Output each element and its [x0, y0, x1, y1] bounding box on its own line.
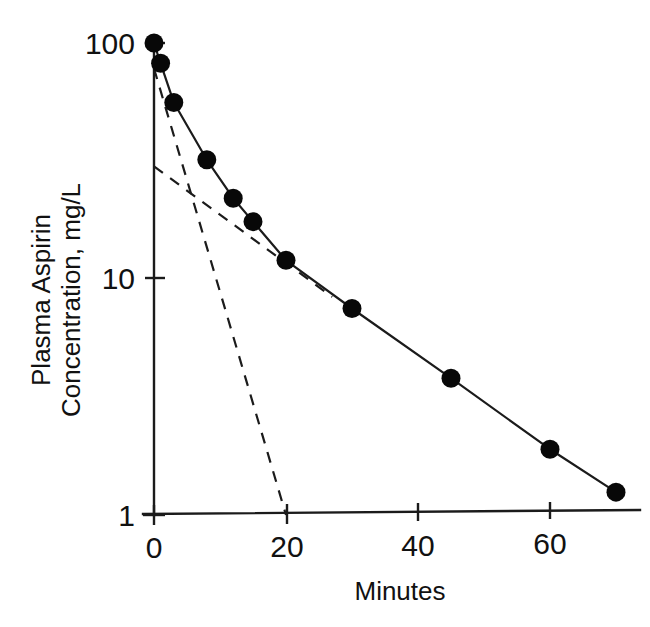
dashed-extrapolation-line-2	[154, 166, 332, 296]
y-axis-title: Plasma Aspirin Concentration, mg/L	[26, 183, 86, 417]
data-point-marker	[277, 251, 296, 270]
data-point-marker	[224, 189, 243, 208]
x-tick-labels: 0 20 40 60	[146, 527, 567, 564]
axes-group	[143, 38, 640, 515]
y-tick-labels: 100 10 1	[85, 27, 135, 532]
data-point-marker	[541, 440, 560, 459]
chart-container: 100 10 1 0 20 40 60 Minutes Plasma Aspir…	[0, 0, 650, 627]
data-point-marker	[442, 369, 461, 388]
data-point-marker	[151, 54, 170, 73]
data-point-marker	[145, 34, 164, 53]
y-tick-label-100: 100	[85, 27, 135, 60]
data-point-marker	[607, 483, 626, 502]
data-point-marker	[244, 212, 263, 231]
plasma-aspirin-concentration-chart: 100 10 1 0 20 40 60 Minutes Plasma Aspir…	[0, 0, 650, 627]
x-axis-line	[143, 510, 640, 514]
data-point-marker	[197, 150, 216, 169]
x-tick-label-60: 60	[533, 527, 566, 560]
data-point-marker	[164, 93, 183, 112]
marker-layer	[145, 34, 626, 502]
y-axis-title-line2: Concentration, mg/L	[56, 183, 86, 417]
x-tick-label-20: 20	[270, 530, 303, 563]
y-tick-label-10: 10	[102, 262, 135, 295]
dashed-extrapolation-line-1	[154, 68, 286, 515]
x-tick-label-40: 40	[401, 529, 434, 562]
data-series-line	[154, 43, 616, 492]
y-tick-label-1: 1	[118, 499, 135, 532]
x-tick-label-0: 0	[146, 531, 163, 564]
data-point-marker	[343, 299, 362, 318]
x-axis-title: Minutes	[354, 576, 445, 606]
y-axis-title-line1: Plasma Aspirin	[26, 214, 56, 386]
